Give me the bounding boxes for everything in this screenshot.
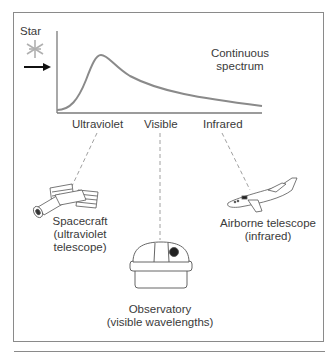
star-icon xyxy=(27,40,43,58)
axis-label-ultraviolet: Ultraviolet xyxy=(72,118,123,131)
spacecraft-caption: Spacecraft (ultraviolet telescope) xyxy=(40,215,120,254)
observatory-caption: Observatory (visible wavelengths) xyxy=(100,303,220,329)
spacecraft-caption-line3: telescope) xyxy=(40,241,120,254)
spacecraft-caption-line1: Spacecraft xyxy=(40,215,120,228)
curve-label: Continuous spectrum xyxy=(200,47,280,73)
spacecraft-caption-line2: (ultraviolet xyxy=(40,228,120,241)
observatory-caption-line1: Observatory xyxy=(100,303,220,316)
curve-label-line1: Continuous xyxy=(200,47,280,60)
axis-label-infrared: Infrared xyxy=(203,118,243,131)
spacecraft-icon xyxy=(32,184,98,219)
airborne-caption-line2: (infrared) xyxy=(213,230,323,243)
airplane-icon xyxy=(228,178,297,212)
airborne-caption-line1: Airborne telescope xyxy=(213,217,323,230)
observatory-caption-line2: (visible wavelengths) xyxy=(100,316,220,329)
observatory-icon xyxy=(130,242,192,288)
airborne-caption: Airborne telescope (infrared) xyxy=(213,217,323,243)
star-label: Star xyxy=(20,25,41,38)
curve-label-line2: spectrum xyxy=(200,60,280,73)
arrow-icon xyxy=(24,63,51,71)
axis-label-visible: Visible xyxy=(144,118,178,131)
